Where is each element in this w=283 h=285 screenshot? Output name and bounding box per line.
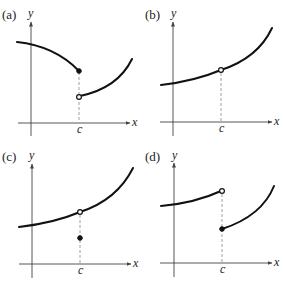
panel-c-curve bbox=[19, 168, 133, 227]
panel-b: (b) y x c bbox=[145, 6, 280, 136]
panel-c: (c) y x c bbox=[2, 148, 139, 278]
panel-a-closed-point bbox=[77, 69, 82, 74]
panel-d-y-label: y bbox=[171, 148, 178, 162]
panel-a-left-branch bbox=[17, 42, 79, 71]
panel-c-closed-point bbox=[78, 236, 83, 241]
panel-a-label: (a) bbox=[2, 7, 16, 22]
panel-d-right-branch bbox=[222, 186, 274, 229]
panel-a-c-label: c bbox=[77, 122, 83, 136]
panel-a-y-label: y bbox=[27, 6, 34, 20]
panel-d-c-label: c bbox=[220, 262, 226, 276]
panel-b-x-label: x bbox=[273, 114, 280, 128]
panel-b-open-point bbox=[219, 68, 224, 73]
panel-b-c-label: c bbox=[219, 121, 225, 135]
panel-d-label: (d) bbox=[145, 149, 160, 164]
panel-a-right-branch bbox=[80, 59, 132, 96]
panel-b-curve bbox=[161, 28, 272, 85]
panel-d-open-point bbox=[220, 189, 225, 194]
figure-discontinuity-graphs: (a) y x c (b) y x c (c) y x c (d bbox=[0, 0, 283, 285]
panel-a-open-point bbox=[77, 95, 82, 100]
panel-d-x-label: x bbox=[273, 255, 280, 269]
panel-c-c-label: c bbox=[78, 263, 84, 277]
panel-a-x-label: x bbox=[131, 115, 138, 129]
panel-b-label: (b) bbox=[145, 7, 160, 22]
panel-d-closed-point bbox=[220, 227, 225, 232]
panel-d-left-branch bbox=[161, 191, 221, 206]
panel-c-label: (c) bbox=[2, 149, 16, 164]
panel-c-y-label: y bbox=[28, 148, 35, 162]
panel-c-open-point bbox=[78, 210, 83, 215]
panel-d: (d) y x c bbox=[145, 148, 280, 277]
panel-a: (a) y x c bbox=[2, 6, 138, 136]
panel-c-x-label: x bbox=[132, 256, 139, 270]
panel-b-y-label: y bbox=[170, 6, 177, 20]
